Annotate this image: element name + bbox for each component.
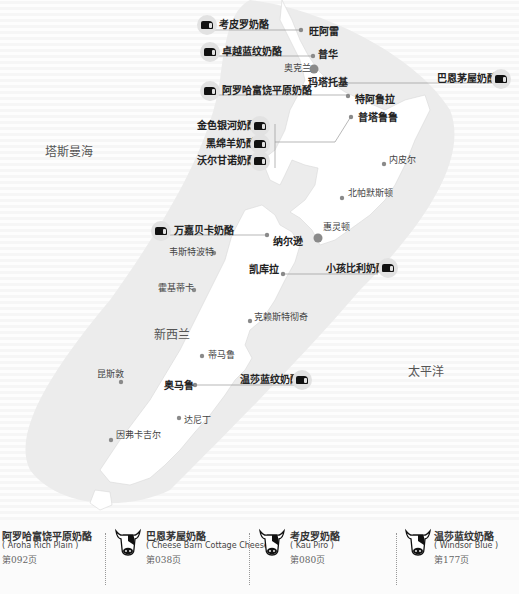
- city-label: 昆斯敦: [97, 369, 124, 380]
- city-label: 达尼丁: [184, 415, 211, 426]
- legend-item[interactable]: 温莎蓝纹奶酪 ( Windsor Blue ) 第177页: [402, 525, 519, 590]
- tasman-sea-label: 塔斯曼海: [45, 142, 93, 159]
- cheese-icon[interactable]: [200, 42, 220, 62]
- cow-icon: [258, 527, 286, 557]
- cheese-label[interactable]: 小孩比利奶酪: [326, 263, 386, 275]
- city-label: 奥克兰: [284, 63, 311, 74]
- legend-page: 第080页: [290, 553, 325, 566]
- city-label: 克赖斯特彻奇: [254, 312, 308, 323]
- legend-item[interactable]: 阿罗哈富饶平原奶酪 ( Aroha Rich Plain ) 第092页: [0, 525, 105, 590]
- cheese-icon[interactable]: [197, 15, 217, 35]
- city-label: 普华: [318, 49, 338, 60]
- legend-item[interactable]: 巴恩茅屋奶酪 ( Cheese Barn Cottage Cheese ) 第0…: [112, 525, 247, 590]
- legend-divider: [105, 533, 106, 585]
- legend-page: 第038页: [146, 553, 181, 566]
- cheese-label[interactable]: 金色银河奶酪: [197, 120, 257, 132]
- city-label: 旺阿雷: [309, 26, 339, 37]
- legend-english: ( Windsor Blue ): [434, 541, 498, 550]
- city-label: 纳尔逊: [273, 236, 303, 247]
- legend-page: 第092页: [2, 553, 37, 566]
- cheese-label[interactable]: 卓越蓝纹奶酪: [222, 46, 282, 58]
- legend-english: ( Kau Piro ): [290, 541, 334, 550]
- cheese-icon[interactable]: [292, 370, 312, 390]
- cheese-label[interactable]: 阿罗哈富饶平原奶酪: [222, 85, 312, 97]
- legend-divider: [396, 533, 397, 585]
- city-label: 霍基蒂卡: [158, 283, 194, 294]
- cow-icon: [404, 527, 432, 557]
- cheese-label[interactable]: 万嘉贝卡奶酪: [174, 225, 234, 237]
- cheese-icon[interactable]: [491, 69, 511, 89]
- pacific-ocean-label: 太平洋: [408, 362, 444, 379]
- cheese-icon[interactable]: [250, 151, 270, 171]
- legend-page: 第177页: [434, 553, 469, 566]
- city-label: 特阿鲁拉: [355, 94, 395, 105]
- city-label: 玛塔托基: [308, 77, 348, 88]
- legend-divider: [249, 533, 250, 585]
- city-label: 惠灵顿: [323, 222, 350, 233]
- cheese-icon[interactable]: [250, 116, 270, 136]
- cheese-label[interactable]: 温莎蓝纹奶酪: [240, 374, 300, 386]
- country-label: 新西兰: [154, 325, 190, 342]
- legend-item[interactable]: 考皮罗奶酪 ( Kau Piro ) 第080页: [256, 525, 386, 590]
- city-label: 北帕默斯顿: [348, 188, 393, 199]
- cheese-legend: 阿罗哈富饶平原奶酪 ( Aroha Rich Plain ) 第092页 巴恩茅…: [0, 525, 519, 594]
- cheese-label[interactable]: 黑绵羊奶酪: [206, 138, 256, 150]
- city-label: 韦斯特波特: [169, 247, 214, 258]
- legend-english: ( Aroha Rich Plain ): [2, 541, 78, 550]
- cow-icon: [114, 527, 142, 557]
- city-label: 因弗卡吉尔: [116, 430, 161, 441]
- city-label: 奥马鲁: [164, 380, 194, 391]
- cheese-icon[interactable]: [200, 81, 220, 101]
- cheese-label[interactable]: 考皮罗奶酪: [219, 19, 269, 31]
- cheese-icon[interactable]: [378, 258, 398, 278]
- city-label: 蒂马鲁: [208, 350, 235, 361]
- cheese-label[interactable]: 沃尔甘诺奶酪: [197, 155, 257, 167]
- city-label: 普塔鲁鲁: [358, 112, 398, 123]
- cheese-icon[interactable]: [151, 221, 171, 241]
- city-label: 凯库拉: [249, 264, 279, 275]
- cheese-label[interactable]: 巴恩茅屋奶酪: [437, 73, 497, 85]
- city-label: 内皮尔: [389, 155, 416, 166]
